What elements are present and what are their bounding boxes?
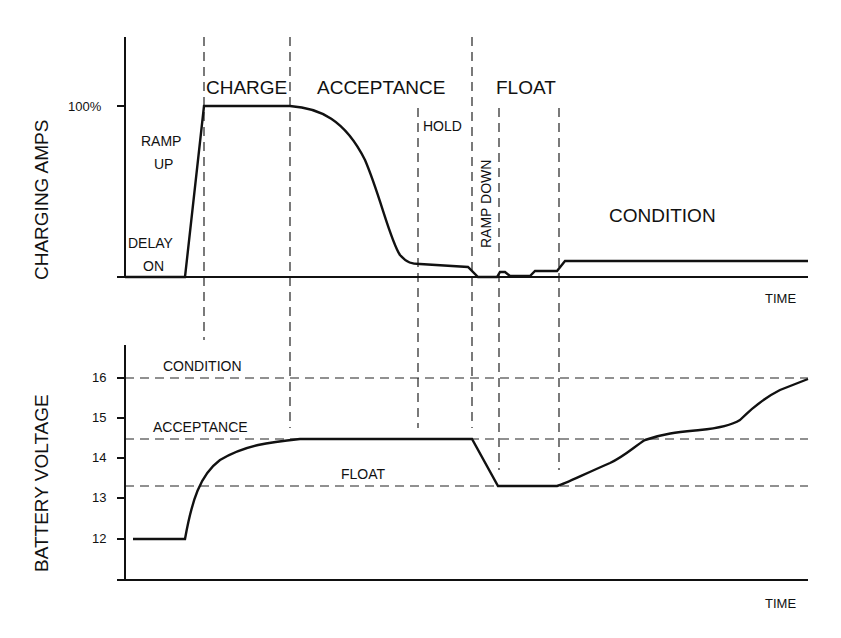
phase-label-ramp-up-line1: RAMP <box>141 134 181 148</box>
phase-label-hold: HOLD <box>423 119 462 133</box>
voltage-y-axis-label: BATTERY VOLTAGE <box>32 394 51 572</box>
amps-curve <box>125 106 808 277</box>
ref-label-acceptance: ACCEPTANCE <box>153 420 248 434</box>
phase-label-ramp-up-line2: UP <box>154 157 173 171</box>
amps-tick-100-label: 100% <box>68 100 101 113</box>
voltage-axes <box>117 345 808 580</box>
voltage-tick-14-label: 14 <box>92 451 106 464</box>
amps-axes <box>117 37 808 277</box>
phase-label-ramp-down: RAMP DOWN <box>479 160 493 248</box>
phase-label-float: FLOAT <box>496 78 556 97</box>
voltage-x-axis-label: TIME <box>765 597 796 610</box>
phase-divider-lines <box>204 37 559 470</box>
phase-label-charge: CHARGE <box>206 78 287 97</box>
voltage-tick-15-label: 15 <box>92 411 106 424</box>
voltage-tick-13-label: 13 <box>92 491 106 504</box>
ref-label-float: FLOAT <box>341 467 385 481</box>
phase-label-condition: CONDITION <box>609 206 716 225</box>
phase-label-delay-on-line1: DELAY <box>128 236 173 250</box>
voltage-curve <box>133 379 808 539</box>
amps-y-axis-label: CHARGING AMPS <box>32 120 51 280</box>
voltage-tick-16-label: 16 <box>92 371 106 384</box>
phase-label-acceptance: ACCEPTANCE <box>317 78 445 97</box>
ref-label-condition: CONDITION <box>163 359 242 373</box>
voltage-tick-12-label: 12 <box>92 532 106 545</box>
amps-x-axis-label: TIME <box>765 292 796 305</box>
phase-label-delay-on-line2: ON <box>143 259 164 273</box>
